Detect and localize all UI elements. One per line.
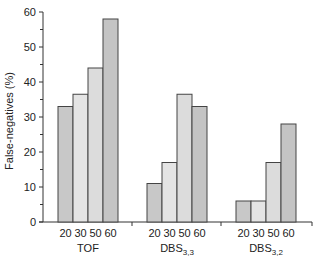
y-tick-label: 10: [24, 181, 36, 193]
y-tick-label: 0: [30, 216, 36, 228]
bar: [251, 201, 266, 222]
x-tick-label: 50: [267, 227, 279, 239]
bar: [192, 107, 207, 223]
bar: [266, 163, 281, 223]
x-tick-label: 20: [237, 227, 249, 239]
x-tick-label: 30: [163, 227, 175, 239]
bar: [281, 124, 296, 222]
bar: [73, 94, 88, 222]
x-tick-label: 60: [282, 227, 294, 239]
bar: [162, 163, 177, 223]
bar-chart: 0102030405060False-negatives (%)20305060…: [0, 0, 318, 257]
x-tick-label: 20: [148, 227, 160, 239]
bar: [58, 107, 73, 223]
x-tick-label: 60: [193, 227, 205, 239]
y-tick-label: 50: [24, 41, 36, 53]
x-tick-label: 50: [89, 227, 101, 239]
group-label: DBS3,3: [160, 242, 194, 257]
bar: [236, 201, 251, 222]
y-tick-label: 60: [24, 6, 36, 18]
x-tick-label: 60: [104, 227, 116, 239]
bar: [147, 184, 162, 223]
bar-group: 20305060DBS3,2: [236, 124, 296, 257]
y-tick-label: 30: [24, 111, 36, 123]
group-label: DBS3,2: [249, 242, 283, 257]
x-tick-label: 30: [252, 227, 264, 239]
x-tick-label: 20: [59, 227, 71, 239]
x-tick-label: 30: [74, 227, 86, 239]
y-tick-label: 20: [24, 146, 36, 158]
x-tick-label: 50: [178, 227, 190, 239]
bar: [177, 94, 192, 222]
y-axis-label: False-negatives (%): [3, 72, 15, 170]
bar: [88, 68, 103, 222]
bar-group: 20305060DBS3,3: [147, 94, 207, 257]
group-label: TOF: [77, 242, 99, 254]
bar: [103, 19, 118, 222]
bar-group: 20305060TOF: [58, 19, 118, 254]
y-tick-label: 40: [24, 76, 36, 88]
